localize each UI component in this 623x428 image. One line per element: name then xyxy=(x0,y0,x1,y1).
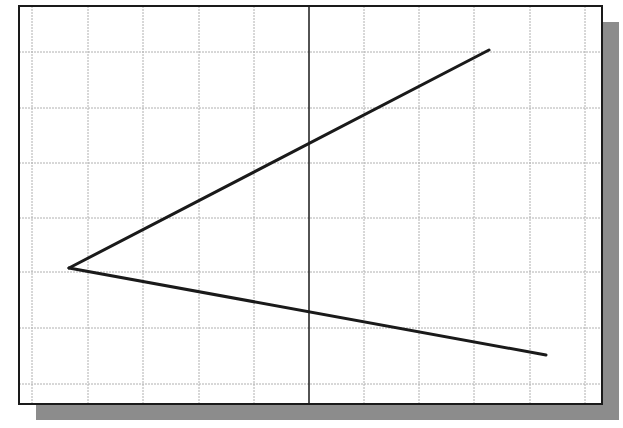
grid-diagram xyxy=(0,0,623,428)
drawing-area xyxy=(19,6,602,404)
